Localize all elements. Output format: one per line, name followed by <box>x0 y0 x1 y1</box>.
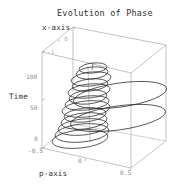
plot-canvas: Evolution of Phase x-axis Time p-axis 0 … <box>0 0 176 186</box>
tick-p-05: 0.5 <box>120 170 131 176</box>
tick-x-minus1: -1 <box>47 49 54 55</box>
bounding-box <box>42 27 166 168</box>
tick-p-minus05: -0.5 <box>28 148 43 154</box>
axis-ticks <box>41 27 131 171</box>
page-title: Evolution of Phase <box>57 9 153 18</box>
tick-x-0: 0 <box>64 36 68 42</box>
phase-trajectory-curve <box>51 62 168 151</box>
tick-time-100: 100 <box>26 74 37 80</box>
tick-p-0: 0 <box>78 158 82 164</box>
axis-label-time: Time <box>9 93 28 101</box>
tick-time-0: 0 <box>34 136 38 142</box>
axis-label-x: x-axis <box>42 24 70 32</box>
axis-label-p: p-axis <box>39 170 67 178</box>
tick-time-50: 50 <box>30 105 37 111</box>
